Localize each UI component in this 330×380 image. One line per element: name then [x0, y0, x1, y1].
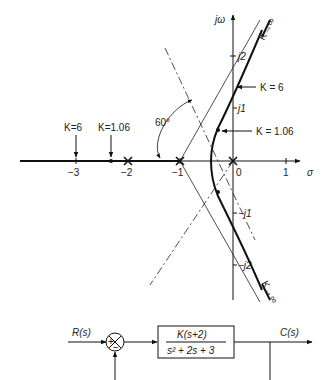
angle-label: 60°	[155, 117, 170, 128]
tick-label-0: 0	[236, 167, 242, 178]
k106-point-upper	[216, 128, 220, 132]
k-inf-lower-label: K→∞	[259, 279, 280, 305]
tf-numerator: K(s+2)	[177, 329, 207, 340]
k106-imag-label: K = 1.06	[256, 126, 294, 137]
tick-label-neg2: −2	[121, 167, 133, 178]
tf-denominator: s² + 2s + 3	[167, 345, 215, 356]
output-label: C(s)	[280, 327, 299, 338]
k6-real-label: K=6	[64, 122, 83, 133]
jw-label: jω	[213, 14, 225, 25]
k6-imag-label: K = 6	[260, 82, 284, 93]
construction-line-upper	[180, 20, 260, 161]
root-locus-diagram: σ −3 −2 −1 0 1 jω j2 j1 −j1 −j2 K=6 K=1.…	[0, 0, 330, 380]
tick-label-neg3: −3	[68, 167, 80, 178]
tick-label-j1: j1	[236, 103, 246, 114]
root-locus-branch	[211, 30, 262, 290]
k106-point-lower	[216, 190, 220, 194]
construction-line-lower	[180, 161, 260, 302]
sum-minus: −	[113, 342, 119, 353]
k-inf-upper-label: K→∞	[256, 16, 277, 42]
sigma-label: σ	[307, 167, 314, 178]
tick-label-neg1: −1	[172, 167, 184, 178]
input-label: R(s)	[72, 327, 91, 338]
k106-real-label: K=1.06	[98, 122, 130, 133]
asymptote-line-lower	[150, 161, 233, 285]
k106-point-real	[109, 159, 113, 163]
tick-label-1: 1	[283, 167, 289, 178]
real-axis	[20, 158, 300, 164]
